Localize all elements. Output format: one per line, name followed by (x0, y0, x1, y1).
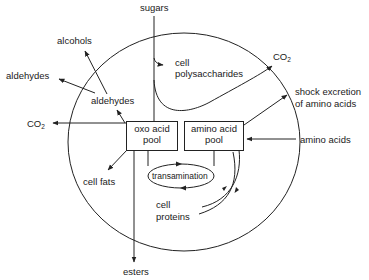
amino-acid-pool-box: amino acid pool (184, 121, 244, 151)
label-cell-polysaccharides-1: cell (175, 57, 189, 68)
oxo-acid-pool-line1: oxo acid (127, 123, 177, 134)
label-aldehydes-inner: aldehydes (91, 95, 134, 106)
arrow-to-cell-fats (108, 150, 127, 170)
arrow-to-aldehydes-outer (59, 79, 95, 93)
arrow-to-polysaccharides (154, 58, 163, 65)
arrow-to-alcohols (85, 51, 107, 94)
label-cell-proteins-2: proteins (156, 211, 190, 222)
transamination-label: transamination (152, 171, 208, 181)
label-aldehydes-outer: aldehydes (6, 70, 49, 81)
label-co2-right: CO2 (273, 51, 291, 65)
oxo-acid-pool-box: oxo acid pool (126, 121, 178, 151)
label-cell-polysaccharides-2: polysaccharides (175, 68, 243, 79)
amino-acid-pool-line2: pool (185, 134, 243, 145)
label-cell-fats: cell fats (83, 176, 115, 187)
label-alcohols: alcohols (57, 35, 92, 46)
label-shock-excretion-1: shock excretion (295, 86, 361, 97)
label-shock-excretion-2: of amino acids (295, 98, 356, 109)
label-co2-left: CO2 (27, 118, 45, 132)
label-cell-proteins-1: cell (156, 199, 170, 210)
arrow-to-shock-excretion (244, 95, 287, 125)
oxo-acid-pool-line2: pool (127, 134, 177, 145)
label-esters: esters (123, 266, 149, 277)
amino-acid-pool-line1: amino acid (185, 123, 243, 134)
arrow-to-aldehydes-inner (117, 110, 125, 123)
label-amino-acids: amino acids (300, 134, 351, 145)
label-sugars: sugars (140, 2, 169, 13)
